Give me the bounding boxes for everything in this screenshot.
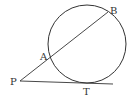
- label-t: T: [83, 86, 90, 97]
- circle: [48, 5, 126, 83]
- label-p: P: [10, 76, 17, 87]
- geometry-diagram: B A P T: [0, 0, 135, 99]
- label-a: A: [39, 51, 48, 62]
- label-b: B: [110, 5, 117, 16]
- secant-line-pb: [20, 12, 108, 81]
